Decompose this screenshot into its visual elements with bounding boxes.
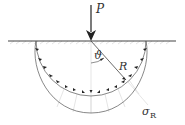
flamant-diagram: P ϑ R σ R: [0, 0, 185, 125]
radial-guide-lines: [57, 41, 148, 113]
stress-subscript: R: [150, 111, 157, 120]
load-label: P: [95, 2, 105, 16]
radius-label: R: [118, 60, 127, 73]
stress-label: σ: [142, 105, 150, 118]
radius-arrowhead: [122, 77, 126, 80]
angle-label: ϑ: [94, 49, 102, 62]
